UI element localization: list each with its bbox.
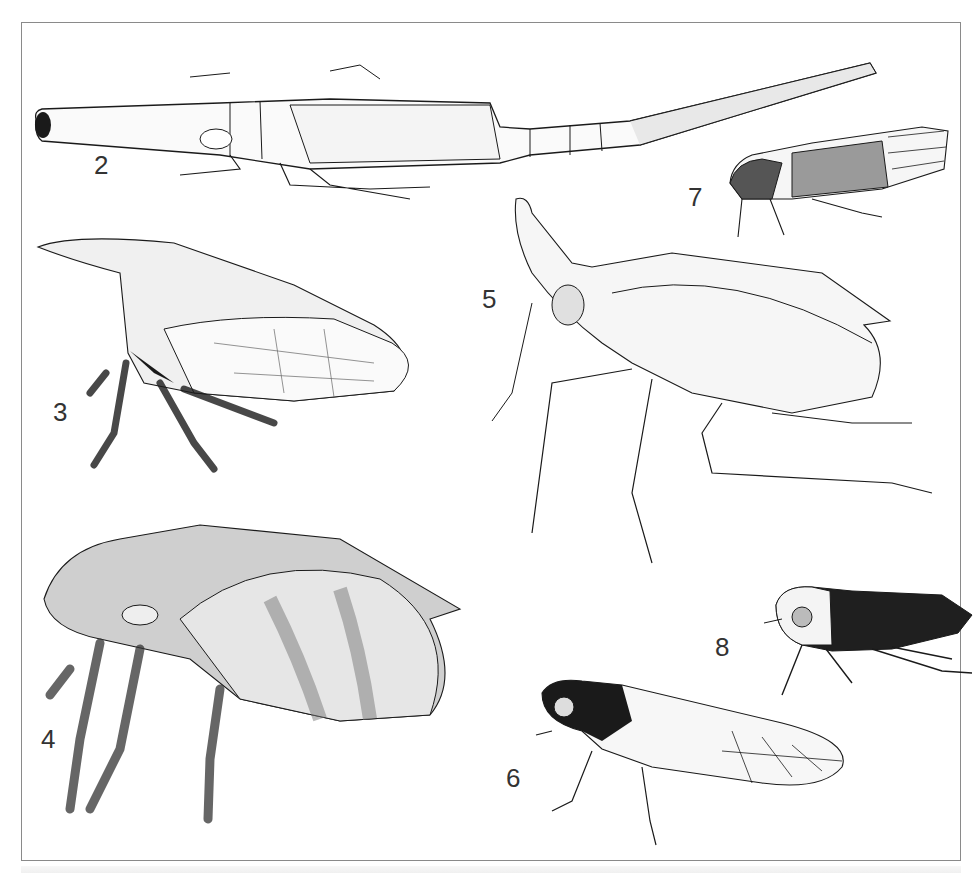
figure-4-illustration bbox=[40, 519, 460, 829]
figure-5-illustration bbox=[472, 193, 952, 573]
caption-cropped bbox=[21, 866, 961, 873]
figure-plate: 2 7 3 5 4 bbox=[21, 22, 961, 861]
figure-label-8: 8 bbox=[715, 634, 729, 660]
figure-3-illustration bbox=[34, 233, 434, 483]
figure-6-illustration bbox=[522, 671, 862, 851]
figure-label-6: 6 bbox=[506, 765, 520, 791]
